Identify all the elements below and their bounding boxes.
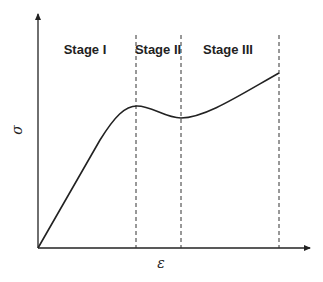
stage-label-2: Stage II (135, 42, 181, 57)
stage-label-3: Stage III (203, 42, 253, 57)
stage-label-1: Stage I (64, 42, 107, 57)
x-axis-label: ε (157, 255, 165, 271)
stress-strain-diagram: Stage I Stage II Stage III σ ε (0, 0, 323, 282)
stress-strain-curve (38, 73, 279, 248)
y-axis-label: σ (9, 125, 25, 135)
